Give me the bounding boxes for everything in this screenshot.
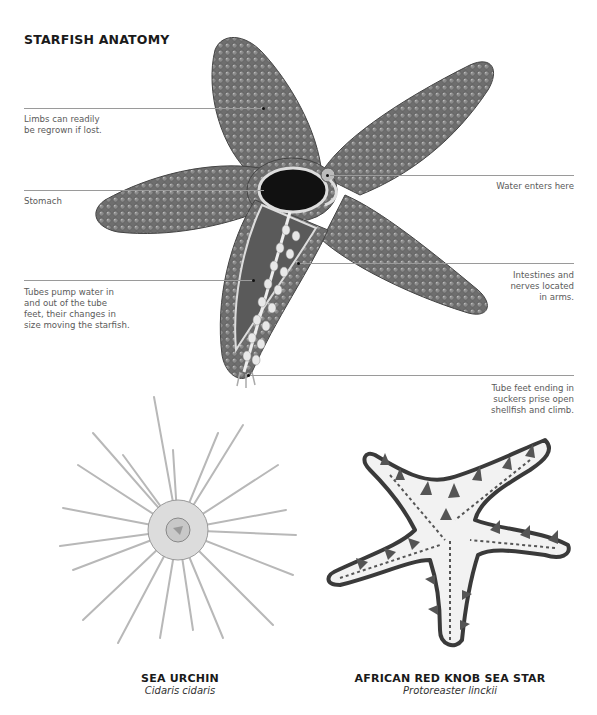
pointer-dot-limbs xyxy=(262,107,265,110)
sea-urchin-name: SEA URCHIN xyxy=(115,672,245,685)
callout-intestines: Intestines and nerves located in arms. xyxy=(510,270,574,303)
leader-line-tubefeet xyxy=(250,375,574,376)
callout-limbs: Limbs can readily be regrown if lost. xyxy=(24,114,102,136)
callout-tubes: Tubes pump water in and out of the tube … xyxy=(24,287,130,331)
pointer-dot-tubefeet xyxy=(247,374,250,377)
sea-urchin-latin: Cidaris cidaris xyxy=(115,685,245,696)
callout-stomach: Stomach xyxy=(24,196,62,207)
callout-tubefeet: Tube feet ending in suckers prise open s… xyxy=(491,383,574,416)
pointer-dot-intestines xyxy=(297,262,300,265)
pointer-dot-water xyxy=(326,174,329,177)
leader-line-water xyxy=(330,175,574,176)
pointer-dot-tubes xyxy=(252,279,255,282)
starfish-arms xyxy=(96,37,494,388)
knob-sea-star-caption: AFRICAN RED KNOB SEA STAR Protoreaster l… xyxy=(340,672,560,696)
callout-water: Water enters here xyxy=(496,181,574,192)
knob-sea-star-illustration xyxy=(328,440,568,645)
sea-urchin-caption: SEA URCHIN Cidaris cidaris xyxy=(115,672,245,696)
leader-line-intestines xyxy=(300,263,574,264)
leader-line-tubes xyxy=(24,280,254,281)
sea-urchin-illustration xyxy=(60,397,296,643)
leader-line-limbs xyxy=(24,108,264,109)
leader-line-stomach xyxy=(24,190,264,191)
knob-sea-star-name: AFRICAN RED KNOB SEA STAR xyxy=(340,672,560,685)
knob-sea-star-latin: Protoreaster linckii xyxy=(340,685,560,696)
